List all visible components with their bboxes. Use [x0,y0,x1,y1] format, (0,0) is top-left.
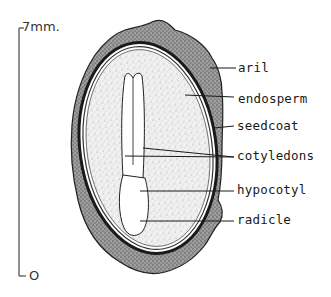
seed-diagram: 7mm. O aril endosperm seedcoat cotyledon… [0,0,331,297]
label-aril: aril [238,62,269,75]
scale-top-label: 7mm. [22,20,60,33]
label-cotyledons: cotyledons [237,150,314,163]
embryo [119,73,148,235]
label-endosperm: endosperm [238,93,308,106]
label-seedcoat: seedcoat [237,120,299,133]
label-radicle: radicle [237,214,291,227]
scale-bottom-label: O [29,269,39,282]
label-hypocotyl: hypocotyl [237,184,307,197]
hypocotyl-shape [119,175,148,235]
scale-bar [19,28,26,276]
